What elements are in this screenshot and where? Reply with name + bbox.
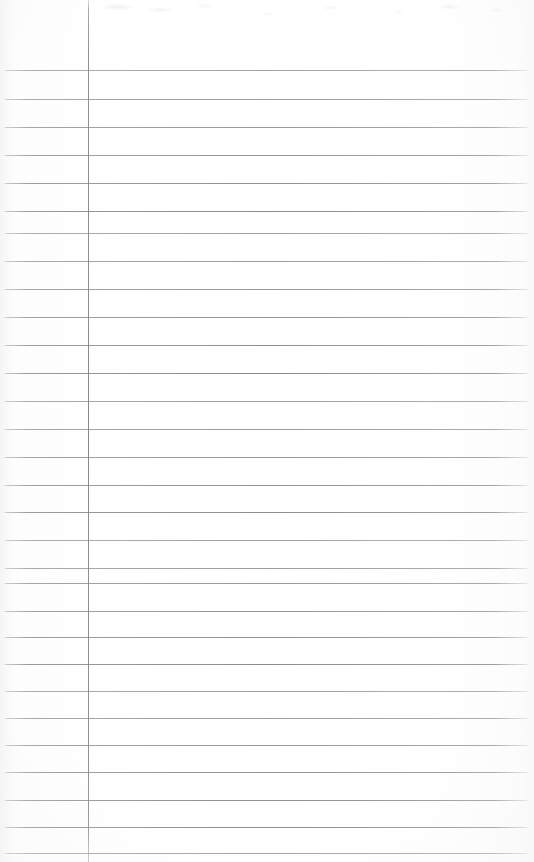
writing-area[interactable]	[89, 70, 530, 860]
scanned-notebook-page	[0, 0, 534, 862]
